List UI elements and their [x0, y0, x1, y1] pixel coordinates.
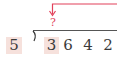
division-bracket [33, 31, 35, 41]
dividend-digit: 4 [81, 37, 95, 54]
dividend-digit: 2 [101, 37, 115, 54]
question-mark: ? [48, 17, 58, 29]
pointer-arrow-line [53, 4, 118, 14]
dividend-digit: 6 [61, 37, 75, 54]
divisor: 5 [6, 37, 22, 54]
dividend-digit-highlighted: 3 [44, 37, 59, 54]
